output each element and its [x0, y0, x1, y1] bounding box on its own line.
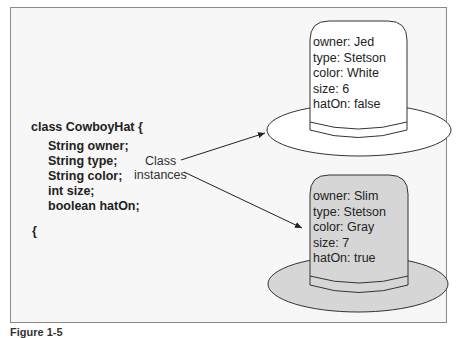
annotation-instances: instances — [134, 168, 187, 183]
attr-color: color: Gray — [313, 220, 386, 236]
attr-size: size: 7 — [313, 236, 386, 252]
field-color: String color; — [48, 169, 140, 184]
arrow-to-gray-hat — [184, 172, 302, 228]
field-owner: String owner; — [48, 139, 140, 154]
field-size: int size; — [48, 184, 140, 199]
instance-jed-attributes: owner: Jed type: Stetson color: White si… — [313, 35, 386, 113]
field-type: String type; — [48, 154, 140, 169]
attr-type: type: Stetson — [313, 205, 386, 221]
attr-hatOn: hatOn: false — [313, 97, 386, 113]
attr-hatOn: hatOn: true — [313, 251, 386, 267]
figure-caption: Figure 1-5 — [10, 326, 63, 338]
field-list: String owner; String type; String color;… — [48, 139, 140, 214]
annotation-class: Class — [145, 154, 176, 169]
attr-owner: owner: Slim — [313, 189, 386, 205]
arrow-to-white-hat — [181, 133, 265, 160]
field-hatOn: boolean hatOn; — [48, 199, 140, 214]
attr-type: type: Stetson — [313, 51, 386, 67]
attr-color: color: White — [313, 66, 386, 82]
class-closing-brace: { — [32, 224, 37, 239]
attr-size: size: 6 — [313, 82, 386, 98]
instance-slim-attributes: owner: Slim type: Stetson color: Gray si… — [313, 189, 386, 267]
class-header: class CowboyHat { — [31, 120, 143, 135]
attr-owner: owner: Jed — [313, 35, 386, 51]
